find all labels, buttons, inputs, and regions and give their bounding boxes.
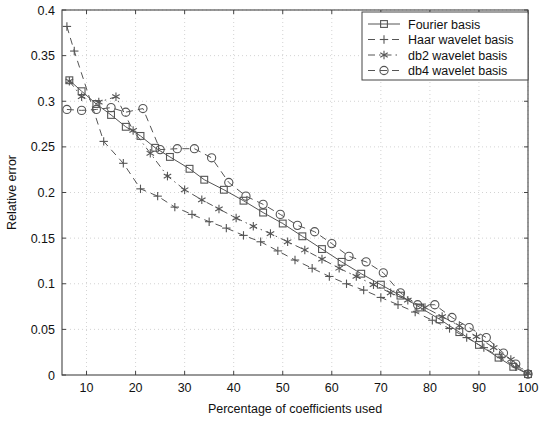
y-tick-label: 0.25	[31, 140, 55, 154]
legend: Fourier basisHaar wavelet basisdb2 wavel…	[362, 12, 528, 80]
x-tick-label: 10	[80, 381, 94, 395]
y-tick-label: 0.2	[38, 186, 55, 200]
x-tick-label: 90	[472, 381, 486, 395]
x-tick-label: 60	[325, 381, 339, 395]
legend-label: db4 wavelet basis	[408, 64, 507, 78]
x-tick-label: 20	[129, 381, 143, 395]
x-tick-label: 80	[423, 381, 437, 395]
x-tick-label: 70	[374, 381, 388, 395]
figure-container: 102030405060708090100 00.050.10.150.20.2…	[0, 0, 549, 422]
legend-label: db2 wavelet basis	[408, 49, 507, 63]
relative-error-chart: 102030405060708090100 00.050.10.150.20.2…	[0, 0, 549, 422]
y-tick-label: 0	[48, 369, 55, 383]
y-tick-label: 0.4	[38, 4, 55, 18]
y-tick-label: 0.05	[31, 323, 55, 337]
x-tick-label: 40	[227, 381, 241, 395]
legend-label: Fourier basis	[408, 18, 480, 32]
y-axis-title: Relative error	[5, 155, 19, 230]
y-tick-label: 0.15	[31, 232, 55, 246]
y-tick-label: 0.35	[31, 49, 55, 63]
x-tick-label: 30	[178, 381, 192, 395]
legend-label: Haar wavelet basis	[408, 33, 514, 47]
y-tick-label: 0.3	[38, 95, 55, 109]
x-axis-title: Percentage of coefficients used	[208, 402, 382, 416]
x-tick-label: 100	[518, 381, 539, 395]
y-tick-label: 0.1	[38, 277, 55, 291]
x-tick-label: 50	[276, 381, 290, 395]
